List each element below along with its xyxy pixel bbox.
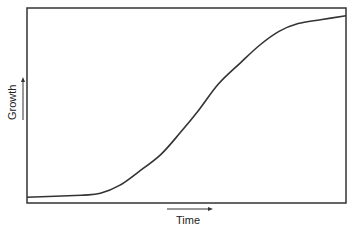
y-arrowhead-icon xyxy=(21,77,25,82)
y-axis-label-group: Growth xyxy=(6,77,25,120)
x-arrowhead-icon xyxy=(208,207,213,211)
plot-frame xyxy=(27,8,346,203)
x-axis-label: Time xyxy=(176,214,200,226)
x-axis-label-group: Time xyxy=(167,207,213,226)
growth-curve xyxy=(27,16,346,197)
y-axis-label: Growth xyxy=(6,85,18,120)
chart: Growth Time xyxy=(0,0,358,231)
